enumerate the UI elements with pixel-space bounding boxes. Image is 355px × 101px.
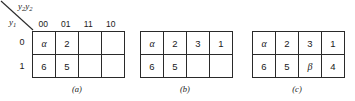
table-row: 6 5 xyxy=(33,55,125,78)
kmap-table-c: α 2 3 1 6 5 β 4 xyxy=(252,31,345,78)
column-header-10: 10 xyxy=(100,18,123,30)
table-row: α 2 3 1 xyxy=(253,32,345,55)
cell-a-r0-c2 xyxy=(79,32,102,55)
cell-c-r0-c1: 2 xyxy=(276,32,299,55)
cell-c-r1-c3: 4 xyxy=(322,55,345,78)
table-row: α 2 xyxy=(33,32,125,55)
cell-b-r0-c0: α xyxy=(141,32,164,55)
cell-c-r1-c1: 5 xyxy=(276,55,299,78)
cell-b-r0-c2: 3 xyxy=(187,32,210,55)
cell-c-r0-c0: α xyxy=(253,32,276,55)
axis-column-variable-label: y2y2 xyxy=(18,1,33,12)
column-headers: 00 01 11 10 xyxy=(32,18,122,30)
cell-b-r0-c3: 1 xyxy=(210,32,233,55)
column-header-01: 01 xyxy=(55,18,78,30)
caption-b: (b) xyxy=(140,84,230,94)
kmap-table-a: α 2 6 5 xyxy=(32,31,125,78)
cell-a-r1-c1: 5 xyxy=(56,55,79,78)
cell-b-r1-c2 xyxy=(187,55,210,78)
row-header-0: 0 xyxy=(14,31,30,55)
cell-a-r0-c3 xyxy=(102,32,125,55)
cell-a-r1-c2 xyxy=(79,55,102,78)
table-row: 6 5 β 4 xyxy=(253,55,345,78)
cell-c-r1-c2: β xyxy=(299,55,322,78)
column-header-00: 00 xyxy=(32,18,55,30)
caption-c: (c) xyxy=(252,84,342,94)
cell-c-r1-c0: 6 xyxy=(253,55,276,78)
table-row: α 2 3 1 xyxy=(141,32,233,55)
cell-a-r0-c1: 2 xyxy=(56,32,79,55)
cell-a-r1-c0: 6 xyxy=(33,55,56,78)
axis-col-var-2-sub: 2 xyxy=(29,5,32,12)
kmap-table-b: α 2 3 1 6 5 xyxy=(140,31,233,78)
row-headers: 0 1 xyxy=(14,31,30,78)
cell-c-r0-c2: 3 xyxy=(299,32,322,55)
cell-a-r0-c0: α xyxy=(33,32,56,55)
row-header-1: 1 xyxy=(14,55,30,79)
cell-a-r1-c3 xyxy=(102,55,125,78)
cell-b-r1-c3 xyxy=(210,55,233,78)
figure-root: y2y2 y1 00 01 11 10 0 1 α 2 6 5 xyxy=(0,0,355,101)
cell-b-r1-c1: 5 xyxy=(164,55,187,78)
column-header-11: 11 xyxy=(77,18,100,30)
axis-header: y2y2 y1 xyxy=(0,0,36,31)
axis-row-var-sub: 1 xyxy=(13,21,16,28)
table-row: 6 5 xyxy=(141,55,233,78)
cell-c-r0-c3: 1 xyxy=(322,32,345,55)
caption-a: (a) xyxy=(32,84,122,94)
cell-b-r1-c0: 6 xyxy=(141,55,164,78)
cell-b-r0-c1: 2 xyxy=(164,32,187,55)
axis-row-variable-label: y1 xyxy=(9,17,16,28)
